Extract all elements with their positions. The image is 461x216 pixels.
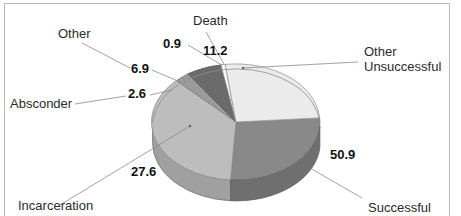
leader-line-absconder xyxy=(75,96,126,104)
pie-chart-figure: Other Absconder Incarceration Death Othe… xyxy=(0,0,461,216)
category-label-other-unsuccessful-line1: Other xyxy=(364,44,397,59)
leader-line-successful xyxy=(310,168,362,198)
category-label-other-unsuccessful-line2: Unsuccessful xyxy=(364,59,441,74)
value-label-successful: 50.9 xyxy=(330,148,355,162)
value-label-absconder: 2.6 xyxy=(128,87,146,101)
leader-line-other-unsuccessful xyxy=(243,62,358,68)
value-label-incarceration: 27.6 xyxy=(131,165,156,179)
pie-slice-other-unsuccessful xyxy=(225,64,320,122)
category-label-other: Other xyxy=(58,26,91,41)
leader-line-other xyxy=(82,43,130,68)
pie-top-face xyxy=(151,64,319,180)
category-label-successful: Successful xyxy=(368,200,431,215)
value-label-other-unsuccessful: 11.2 xyxy=(203,44,228,58)
leader-dot-incarceration xyxy=(189,125,192,128)
category-label-incarceration: Incarceration xyxy=(18,198,93,213)
category-label-absconder: Absconder xyxy=(10,96,72,111)
leader-dot-other-unsuccessful xyxy=(242,67,245,70)
value-label-other: 6.9 xyxy=(131,62,149,76)
value-label-death: 0.9 xyxy=(163,37,181,51)
category-label-death: Death xyxy=(193,13,228,28)
leader-line-other-value xyxy=(152,70,180,82)
